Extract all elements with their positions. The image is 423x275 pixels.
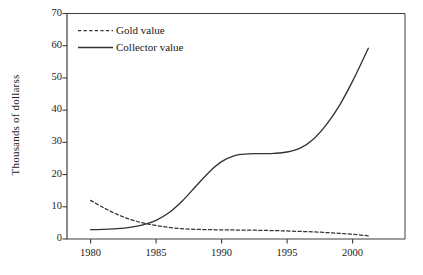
chart-legend: Gold valueCollector value	[116, 22, 266, 56]
legend-item-label: Collector value	[116, 41, 184, 53]
chart-container: Thousands of dollarss 010203040506070 19…	[0, 0, 423, 275]
legend-item-collector-value[interactable]: Collector value	[116, 39, 266, 56]
legend-item-gold-value[interactable]: Gold value	[116, 22, 266, 39]
data-series-group	[91, 48, 369, 235]
legend-item-label: Gold value	[116, 24, 165, 36]
series-line-gold-value	[91, 200, 369, 235]
legend-swatches	[78, 31, 113, 48]
series-line-collector-value	[91, 48, 369, 229]
